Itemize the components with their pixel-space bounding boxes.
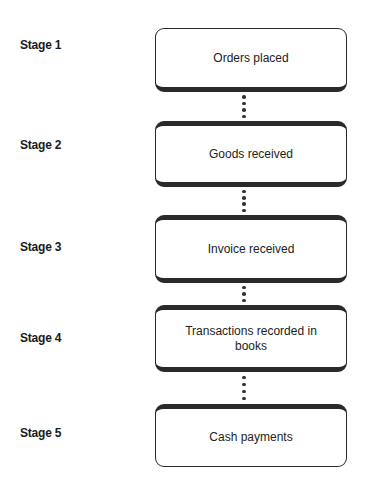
- stage-label-3: Stage 3: [20, 240, 61, 254]
- stage-label-4: Stage 4: [20, 331, 61, 345]
- dotted-connector-4-5: [242, 372, 246, 404]
- dot-icon: [242, 102, 246, 106]
- step-box-cash-payments: Cash payments: [155, 404, 347, 467]
- stage-label-2: Stage 2: [20, 138, 61, 152]
- dot-icon: [242, 292, 246, 296]
- step-text: Invoice received: [208, 242, 295, 257]
- dotted-connector-2-3: [242, 187, 246, 215]
- dot-icon: [242, 196, 246, 200]
- dot-icon: [242, 376, 246, 380]
- dotted-connector-3-4: [242, 283, 246, 305]
- step-box-orders-placed: Orders placed: [155, 28, 347, 92]
- dot-icon: [242, 95, 246, 99]
- dot-icon: [242, 286, 246, 290]
- dot-icon: [242, 108, 246, 112]
- step-text: Goods received: [209, 147, 293, 162]
- dotted-connector-1-2: [242, 92, 246, 121]
- step-box-goods-received: Goods received: [155, 121, 347, 187]
- step-box-transactions-recorded: Transactions recorded in books: [155, 305, 347, 372]
- stage-label-5: Stage 5: [20, 426, 61, 440]
- dot-icon: [242, 202, 246, 206]
- stage-label-1: Stage 1: [20, 38, 61, 52]
- step-text: Transactions recorded in books: [176, 324, 326, 354]
- step-text: Cash payments: [209, 430, 292, 445]
- dot-icon: [242, 383, 246, 387]
- dot-icon: [242, 190, 246, 194]
- step-box-invoice-received: Invoice received: [155, 215, 347, 283]
- dot-icon: [242, 397, 246, 401]
- step-text: Orders placed: [213, 51, 288, 66]
- dot-icon: [242, 209, 246, 213]
- dot-icon: [242, 390, 246, 394]
- dot-icon: [242, 115, 246, 119]
- dot-icon: [242, 299, 246, 303]
